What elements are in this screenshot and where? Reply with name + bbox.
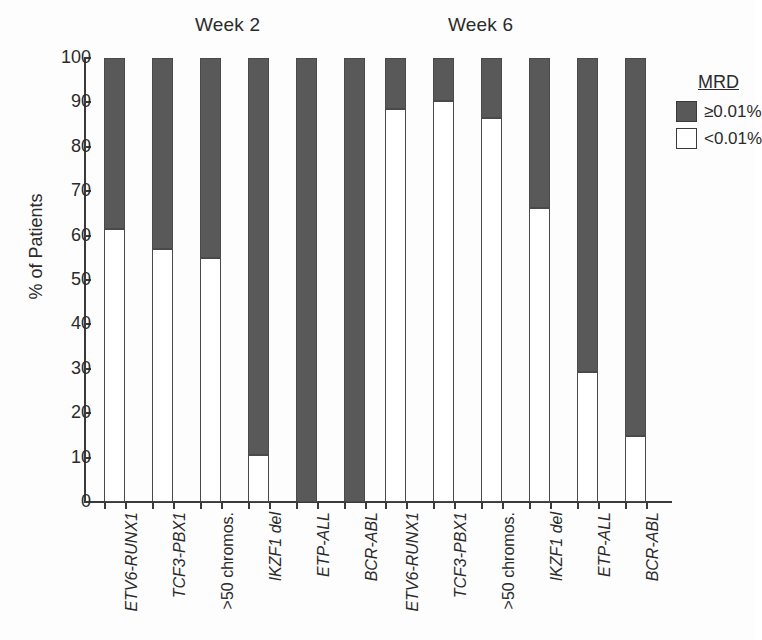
bar-week-2-3[interactable] xyxy=(248,58,269,502)
legend-label-high: ≥0.01% xyxy=(704,102,762,122)
bar-segment-high xyxy=(433,58,454,101)
x-axis-label: ETV6-RUNX1 xyxy=(123,512,141,640)
bar-segment-high xyxy=(529,58,550,208)
plot-area xyxy=(84,58,672,502)
bar-segment-low xyxy=(152,249,173,502)
x-tick-mark xyxy=(481,501,483,509)
x-axis-label: ETP-ALL xyxy=(596,512,614,640)
x-axis-label: >50 chromos. xyxy=(500,512,518,640)
x-tick-mark xyxy=(248,501,250,509)
x-tick-mark xyxy=(104,501,106,509)
bar-segment-low xyxy=(104,229,125,502)
x-axis-label: ETP-ALL xyxy=(315,512,333,640)
bar-segment-high xyxy=(577,58,598,372)
x-tick-mark xyxy=(317,501,319,509)
x-axis-label: BCR-ABL xyxy=(363,512,381,640)
x-tick-mark xyxy=(269,501,271,509)
x-tick-mark xyxy=(125,501,127,509)
bar-segment-high xyxy=(104,58,125,229)
bar-segment-low xyxy=(625,436,646,502)
bar-segment-low xyxy=(481,118,502,502)
bar-segment-high xyxy=(200,58,221,258)
x-tick-mark xyxy=(221,501,223,509)
group-title-week2: Week 2 xyxy=(195,14,260,36)
x-tick-mark xyxy=(646,501,648,509)
x-axis-label: TCF3-PBX1 xyxy=(452,512,470,640)
legend-swatch-low xyxy=(676,128,697,149)
bar-week-6-5[interactable] xyxy=(625,58,646,502)
bar-week-2-1[interactable] xyxy=(152,58,173,502)
x-tick-mark xyxy=(406,501,408,509)
x-tick-mark xyxy=(577,501,579,509)
legend: MRD ≥0.01% <0.01% xyxy=(676,72,755,155)
bar-segment-high xyxy=(625,58,646,436)
bar-segment-high xyxy=(152,58,173,249)
bar-week-6-0[interactable] xyxy=(385,58,406,502)
bar-week-2-5[interactable] xyxy=(344,58,365,502)
bar-week-2-4[interactable] xyxy=(296,58,317,502)
legend-swatch-high xyxy=(676,101,697,122)
bar-segment-low xyxy=(577,372,598,502)
x-tick-mark xyxy=(598,501,600,509)
x-axis-label: IKZF1 del xyxy=(267,512,285,640)
x-tick-mark xyxy=(173,501,175,509)
bar-segment-high xyxy=(344,58,365,502)
legend-item-low: <0.01% xyxy=(676,128,755,149)
bar-week-2-2[interactable] xyxy=(200,58,221,502)
bar-week-6-2[interactable] xyxy=(481,58,502,502)
bar-week-6-1[interactable] xyxy=(433,58,454,502)
x-axis-label: ETV6-RUNX1 xyxy=(404,512,422,640)
bar-week-2-0[interactable] xyxy=(104,58,125,502)
y-axis-label: % of Patients xyxy=(26,167,47,327)
x-tick-mark xyxy=(625,501,627,509)
bar-segment-high xyxy=(248,58,269,455)
legend-title: MRD xyxy=(698,72,755,93)
x-tick-mark xyxy=(152,501,154,509)
x-tick-mark xyxy=(385,501,387,509)
bar-segment-high xyxy=(296,58,317,502)
x-axis-label: BCR-ABL xyxy=(644,512,662,640)
bar-segment-low xyxy=(200,258,221,502)
bar-segment-low xyxy=(433,101,454,502)
bar-segment-high xyxy=(385,58,406,109)
bar-segment-low xyxy=(385,109,406,502)
bar-week-6-4[interactable] xyxy=(577,58,598,502)
x-tick-mark xyxy=(454,501,456,509)
x-tick-mark xyxy=(365,501,367,509)
legend-item-high: ≥0.01% xyxy=(676,101,755,122)
bar-segment-high xyxy=(481,58,502,118)
bar-week-6-3[interactable] xyxy=(529,58,550,502)
x-tick-mark xyxy=(344,501,346,509)
x-axis-label: IKZF1 del xyxy=(548,512,566,640)
x-tick-mark xyxy=(433,501,435,509)
legend-label-low: <0.01% xyxy=(704,129,762,149)
x-axis-label: >50 chromos. xyxy=(219,512,237,640)
group-title-week6: Week 6 xyxy=(448,14,513,36)
x-axis-label: TCF3-PBX1 xyxy=(171,512,189,640)
x-tick-mark xyxy=(296,501,298,509)
x-tick-mark xyxy=(550,501,552,509)
x-tick-mark xyxy=(529,501,531,509)
x-tick-mark xyxy=(502,501,504,509)
bar-segment-low xyxy=(248,455,269,502)
bar-segment-low xyxy=(529,208,550,502)
x-tick-mark xyxy=(200,501,202,509)
